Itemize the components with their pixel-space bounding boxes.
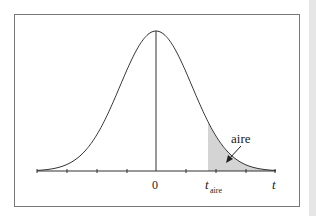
t-axis-label: t [272,177,276,192]
t-crit-subscript: aire [210,186,222,195]
diagram-canvas: aire 0 t aire t [0,0,316,216]
scroll-strip [309,0,316,216]
t-crit-label: t [205,177,209,192]
area-label: aire [231,131,251,146]
zero-label: 0 [152,178,158,192]
